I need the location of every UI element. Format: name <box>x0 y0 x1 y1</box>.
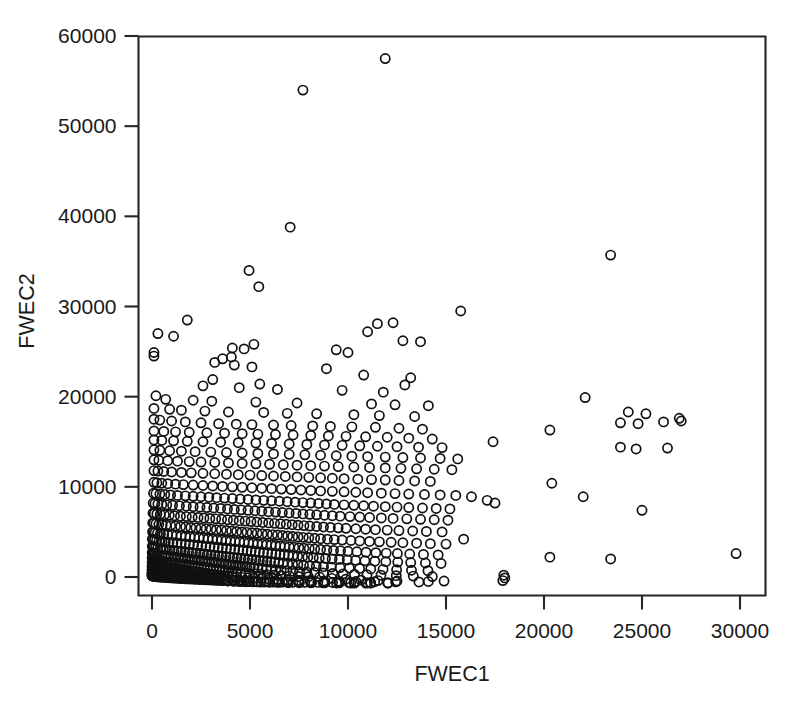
plot-svg: 050001000015000200002500030000 010000200… <box>0 0 793 702</box>
y-tick-label: 30000 <box>58 295 116 318</box>
x-tick-label: 5000 <box>227 619 274 642</box>
x-tick-label: 0 <box>146 619 158 642</box>
y-tick-label: 20000 <box>58 385 116 408</box>
x-tick-label: 25000 <box>613 619 671 642</box>
x-tick-label: 15000 <box>417 619 475 642</box>
x-axis-title: FWEC1 <box>414 662 489 686</box>
y-tick-label: 0 <box>105 565 117 588</box>
y-tick-label: 40000 <box>58 204 116 227</box>
chart-background <box>0 0 793 702</box>
x-tick-label: 20000 <box>515 619 573 642</box>
scatter-chart: 050001000015000200002500030000 010000200… <box>0 0 793 702</box>
y-axis-title: FWEC2 <box>15 273 39 348</box>
y-tick-label: 60000 <box>58 24 116 47</box>
y-tick-label: 10000 <box>58 475 116 498</box>
x-tick-label: 30000 <box>711 619 769 642</box>
y-tick-label: 50000 <box>58 114 116 137</box>
x-tick-label: 10000 <box>319 619 377 642</box>
